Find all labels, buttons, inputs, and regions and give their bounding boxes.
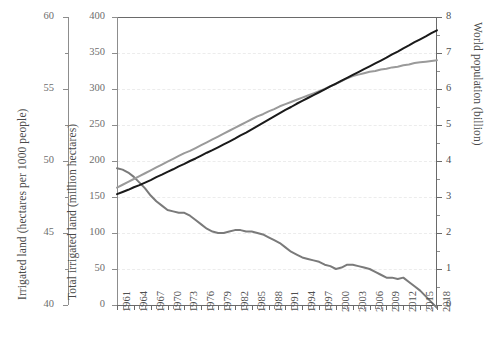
right-tick-label: 4: [446, 154, 451, 165]
x-tick: [302, 306, 303, 310]
series-line: [117, 30, 437, 194]
x-minor-tick: [257, 306, 258, 309]
right-tick-label: 2: [446, 226, 451, 237]
x-tick: [235, 306, 236, 310]
x-tick: [168, 306, 169, 310]
x-tick: [117, 306, 118, 310]
right-tick: [437, 197, 442, 198]
x-minor-tick: [162, 306, 163, 309]
x-tick: [252, 306, 253, 310]
right-tick-label: 3: [446, 190, 451, 201]
x-minor-tick: [246, 306, 247, 309]
x-minor-tick: [426, 306, 427, 309]
x-minor-tick: [313, 306, 314, 309]
x-minor-tick: [375, 306, 376, 309]
right-minor-tick: [437, 215, 440, 216]
right-tick: [437, 17, 442, 18]
x-tick: [386, 306, 387, 310]
right-tick: [437, 305, 442, 306]
x-minor-tick: [409, 306, 410, 309]
x-minor-tick: [291, 306, 292, 309]
x-minor-tick: [139, 306, 140, 309]
x-minor-tick: [123, 306, 124, 309]
x-tick: [370, 306, 371, 310]
x-minor-tick: [415, 306, 416, 309]
right-tick: [437, 161, 442, 162]
x-tick: [437, 306, 438, 310]
right-minor-tick: [437, 143, 440, 144]
x-tick: [403, 306, 404, 310]
right-tick: [437, 125, 442, 126]
x-tick: [285, 306, 286, 310]
right-tick: [437, 233, 442, 234]
x-minor-tick: [196, 306, 197, 309]
right-minor-tick: [437, 107, 440, 108]
x-tick: [269, 306, 270, 310]
x-tick: [319, 306, 320, 310]
x-minor-tick: [229, 306, 230, 309]
x-tick: [184, 306, 185, 310]
x-minor-tick: [190, 306, 191, 309]
x-minor-tick: [179, 306, 180, 309]
x-tick: [420, 306, 421, 310]
x-minor-tick: [342, 306, 343, 309]
x-tick: [201, 306, 202, 310]
x-minor-tick: [297, 306, 298, 309]
x-minor-tick: [392, 306, 393, 309]
x-minor-tick: [325, 306, 326, 309]
series-line: [117, 168, 437, 308]
x-tick: [353, 306, 354, 310]
x-tick: [218, 306, 219, 310]
right-tick-label: 1: [446, 262, 451, 273]
x-minor-tick: [156, 306, 157, 309]
x-minor-tick: [224, 306, 225, 309]
right-tick-label: 7: [446, 46, 451, 57]
x-minor-tick: [212, 306, 213, 309]
x-minor-tick: [431, 306, 432, 309]
right-tick-label: 0: [446, 298, 451, 309]
right-minor-tick: [437, 35, 440, 36]
x-tick: [336, 306, 337, 310]
right-tick: [437, 53, 442, 54]
x-minor-tick: [347, 306, 348, 309]
x-minor-tick: [207, 306, 208, 309]
x-minor-tick: [173, 306, 174, 309]
series-line: [117, 60, 437, 187]
x-tick: [151, 306, 152, 310]
x-minor-tick: [263, 306, 264, 309]
x-minor-tick: [308, 306, 309, 309]
right-minor-tick: [437, 179, 440, 180]
right-minor-tick: [437, 251, 440, 252]
right-minor-tick: [437, 287, 440, 288]
x-minor-tick: [398, 306, 399, 309]
figure: 6055504540 Irrigated land (hectares per …: [0, 0, 497, 355]
x-minor-tick: [280, 306, 281, 309]
x-minor-tick: [145, 306, 146, 309]
x-minor-tick: [330, 306, 331, 309]
right-tick: [437, 269, 442, 270]
right-tick-label: 8: [446, 10, 451, 21]
x-minor-tick: [241, 306, 242, 309]
x-minor-tick: [364, 306, 365, 309]
x-tick: [134, 306, 135, 310]
x-minor-tick: [358, 306, 359, 309]
right-minor-tick: [437, 71, 440, 72]
right-tick-label: 5: [446, 118, 451, 129]
right-tick-label: 6: [446, 82, 451, 93]
right-axis-title: World population (billion): [472, 22, 484, 146]
right-tick: [437, 89, 442, 90]
x-minor-tick: [381, 306, 382, 309]
x-minor-tick: [128, 306, 129, 309]
x-minor-tick: [274, 306, 275, 309]
